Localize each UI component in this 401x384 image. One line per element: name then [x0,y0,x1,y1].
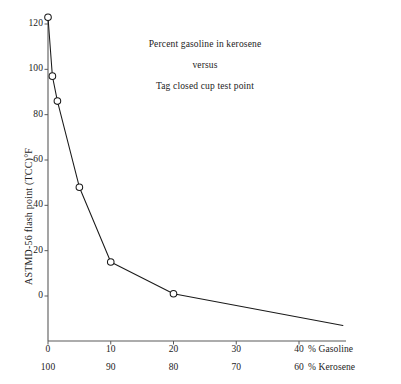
x-axis-label-gasoline: % Gasoline [308,345,353,355]
x-axis-secondary-tick-label: 70 [216,363,256,373]
data-point [107,259,114,266]
y-axis-tick-label: 80 [12,110,43,120]
x-axis-label-kerosene: % Kerosene [308,363,355,373]
x-axis-tick-label: 0 [28,345,68,355]
data-point [170,290,177,297]
data-point [49,73,56,80]
chart-container: Percent gasoline in kerosene versus Tag … [0,0,401,384]
chart-title-line-3: Tag closed cup test point [124,82,286,92]
x-axis-secondary-tick-label: 90 [91,363,131,373]
y-axis-tick-label: 100 [12,64,43,74]
y-axis-tick-label: 120 [12,19,43,29]
data-point [76,184,83,191]
y-axis-tick-label: 20 [12,246,43,256]
x-axis-tick-label: 10 [91,345,131,355]
x-axis-tick-label: 20 [154,345,194,355]
chart-plot-area [0,0,401,384]
y-axis-tick-label: 40 [12,200,43,210]
y-axis-label: ASTMD-56 flash point (TCC)°F [24,148,34,285]
x-axis-secondary-tick-label: 80 [154,363,194,373]
data-point [45,14,52,21]
chart-title-line-2: versus [131,61,279,71]
y-axis-tick-label: 0 [12,291,43,301]
x-axis-tick-label: 30 [216,345,256,355]
data-series-markers [45,14,177,297]
y-axis-tick-label: 60 [12,155,43,165]
x-axis-secondary-tick-label: 100 [28,363,68,373]
data-point [54,98,61,105]
chart-title-line-1: Percent gasoline in kerosene [131,40,279,50]
